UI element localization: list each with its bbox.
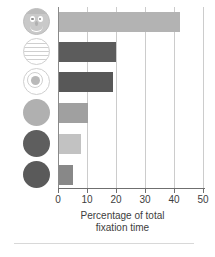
x-axis-title-line1: Percentage of total — [40, 210, 205, 222]
bar-dark-gray-disc-icon — [58, 134, 81, 154]
bar-darkest-gray-disc-icon — [58, 165, 73, 185]
x-tick-20 — [116, 188, 117, 193]
stripe-line — [24, 59, 49, 60]
dark-gray-disc-icon — [23, 130, 50, 157]
category-icon-slot-4 — [14, 97, 58, 127]
x-tick-label-0: 0 — [43, 194, 73, 205]
bullseye-icon — [23, 68, 50, 95]
bar-light-gray-disc-icon — [58, 103, 88, 123]
x-tick-0 — [58, 188, 59, 193]
figure: 0 10 20 30 40 50 Percentage of total fix… — [0, 0, 215, 257]
bar-face-icon — [58, 12, 180, 32]
bar-striped-circle-icon — [58, 42, 116, 62]
bar-row — [58, 7, 204, 37]
face-pupil-right — [39, 18, 42, 21]
x-tick-30 — [145, 188, 146, 193]
category-icon-slot-2 — [14, 36, 58, 66]
bar-row — [58, 129, 204, 159]
bar-row — [58, 98, 204, 128]
x-tick-label-50: 50 — [188, 194, 215, 205]
face-mouth — [30, 26, 43, 32]
darkest-gray-disc-icon — [23, 161, 50, 188]
category-icon-slot-1 — [14, 6, 58, 36]
face-nose — [35, 21, 38, 26]
category-icon-slot-3 — [14, 66, 58, 96]
x-axis-line — [58, 188, 205, 189]
stripe-line — [24, 55, 49, 56]
face-pupil-left — [31, 18, 34, 21]
category-icon-column — [14, 6, 58, 190]
x-tick-label-30: 30 — [130, 194, 160, 205]
light-gray-disc-icon — [23, 99, 50, 126]
face-icon — [23, 8, 50, 35]
plot-area — [58, 7, 204, 189]
x-tick-label-10: 10 — [72, 194, 102, 205]
x-tick-label-20: 20 — [101, 194, 131, 205]
x-axis-title-line2: fixation time — [40, 222, 205, 234]
x-tick-50 — [203, 188, 204, 193]
bar-row — [58, 160, 204, 190]
footer-divider — [14, 243, 194, 244]
bar-row — [58, 67, 204, 97]
striped-circle-icon — [23, 38, 50, 65]
bar-bullseye-icon — [58, 72, 113, 92]
stripe-line — [24, 43, 49, 44]
category-icon-slot-6 — [14, 159, 58, 189]
category-icon-slot-5 — [14, 128, 58, 158]
stripe-line — [24, 51, 49, 52]
x-axis-title: Percentage of total fixation time — [40, 210, 205, 234]
bullseye-center — [31, 76, 40, 85]
x-tick-10 — [87, 188, 88, 193]
y-axis-line — [58, 7, 59, 189]
stripe-line — [24, 47, 49, 48]
face-hair — [23, 8, 50, 14]
bar-row — [58, 37, 204, 67]
x-tick-40 — [174, 188, 175, 193]
x-tick-label-40: 40 — [159, 194, 189, 205]
